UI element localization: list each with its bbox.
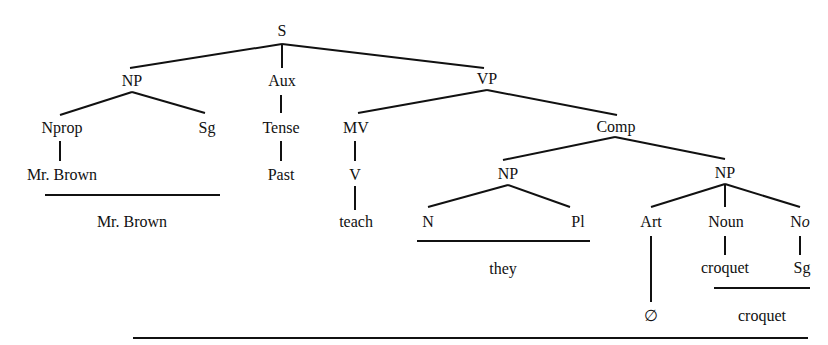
realization-croquet: croquet <box>738 308 786 324</box>
node-tense: Tense <box>262 120 299 136</box>
node-sg-subject: Sg <box>199 120 216 136</box>
node-vp: VP <box>477 71 497 87</box>
node-comp: Comp <box>596 119 635 135</box>
node-aux: Aux <box>268 73 296 89</box>
realization-mr-brown: Mr. Brown <box>97 214 167 230</box>
node-noun: Noun <box>708 214 744 230</box>
node-number-n: N <box>790 213 802 230</box>
node-croquet-terminal: croquet <box>701 260 749 276</box>
node-number-o: o <box>802 213 810 230</box>
node-np-object-1: NP <box>498 166 518 182</box>
syntax-tree-diagram: S NP Aux VP Nprop Sg Tense MV Comp Mr. B… <box>0 0 828 345</box>
node-art: Art <box>640 214 661 230</box>
node-null-article: ∅ <box>644 308 658 324</box>
node-n: N <box>422 214 434 230</box>
realization-they: they <box>489 261 517 277</box>
node-sg-object: Sg <box>794 260 811 276</box>
node-mr-brown-terminal: Mr. Brown <box>27 167 97 183</box>
node-pl: Pl <box>571 214 584 230</box>
node-nprop: Nprop <box>42 120 83 136</box>
tree-branches <box>0 0 828 345</box>
node-past: Past <box>268 167 295 183</box>
node-mv: MV <box>343 120 369 136</box>
node-v: V <box>349 167 361 183</box>
node-np-object-2: NP <box>715 165 735 181</box>
node-s: S <box>278 23 287 39</box>
node-np-subject: NP <box>122 73 142 89</box>
node-teach: teach <box>339 214 373 230</box>
node-number: No <box>790 214 810 230</box>
